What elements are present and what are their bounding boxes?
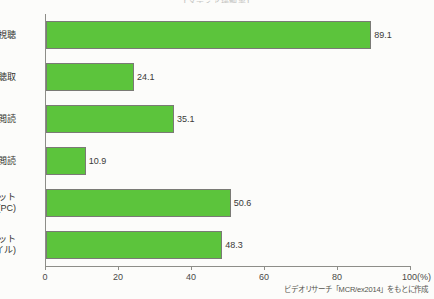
source-note: ビデオリサーチ「MCR/ex2014」をもとに作成 bbox=[284, 283, 428, 294]
category-label-line: ラジオ聴取 bbox=[0, 72, 16, 83]
bar-row: 48.3ネット(モバイル) bbox=[45, 231, 410, 259]
category-label-line: テレビ視聴 bbox=[0, 30, 16, 41]
bar-row: 24.1ラジオ聴取 bbox=[45, 63, 410, 91]
bar[interactable] bbox=[46, 63, 134, 91]
bar-row: 89.1テレビ視聴 bbox=[45, 21, 410, 49]
bar-value-label: 35.1 bbox=[173, 114, 195, 124]
category-label-line: 雑誌閲読 bbox=[0, 156, 16, 167]
bar-value-label: 10.9 bbox=[85, 156, 107, 166]
category-label: ネット(モバイル) bbox=[0, 234, 16, 256]
x-tick-label: 0 bbox=[42, 272, 47, 282]
bar[interactable] bbox=[46, 105, 174, 133]
category-label-line: (PC) bbox=[0, 203, 16, 214]
bar[interactable] bbox=[46, 231, 222, 259]
category-label-line: 新聞閲読 bbox=[0, 114, 16, 125]
bar-value-label: 24.1 bbox=[133, 72, 155, 82]
category-label: ネット(PC) bbox=[0, 192, 16, 214]
bar[interactable] bbox=[46, 189, 231, 217]
chart-title: 【メディア接触率】 bbox=[0, 0, 434, 3]
category-label: 雑誌閲読 bbox=[0, 156, 16, 167]
bar-row: 35.1新聞閲読 bbox=[45, 105, 410, 133]
x-tick-label: 100(%) bbox=[402, 272, 431, 282]
x-tick-label: 20 bbox=[113, 272, 123, 282]
bar-value-label: 48.3 bbox=[221, 240, 243, 250]
bar-value-label: 89.1 bbox=[370, 30, 392, 40]
category-label: 新聞閲読 bbox=[0, 114, 16, 125]
bar-row: 50.6ネット(PC) bbox=[45, 189, 410, 217]
chart-page: 【メディア接触率】 020406080100(%) 89.1テレビ視聴24.1ラ… bbox=[0, 0, 434, 299]
category-label-line: ネット bbox=[0, 192, 16, 203]
x-tick bbox=[337, 266, 338, 270]
x-tick bbox=[191, 266, 192, 270]
x-tick-label: 80 bbox=[332, 272, 342, 282]
category-label-line: (モバイル) bbox=[0, 245, 16, 256]
x-tick bbox=[264, 266, 265, 270]
bar-row: 10.9雑誌閲読 bbox=[45, 147, 410, 175]
category-label: ラジオ聴取 bbox=[0, 72, 16, 83]
x-axis-line bbox=[45, 266, 410, 267]
x-tick-label: 60 bbox=[259, 272, 269, 282]
category-label: テレビ視聴 bbox=[0, 30, 16, 41]
bar[interactable] bbox=[46, 21, 371, 49]
category-label-line: ネット bbox=[0, 234, 16, 245]
bar[interactable] bbox=[46, 147, 86, 175]
x-tick bbox=[118, 266, 119, 270]
x-tick bbox=[410, 266, 411, 270]
bar-value-label: 50.6 bbox=[230, 198, 252, 208]
plot-area: 020406080100(%) 89.1テレビ視聴24.1ラジオ聴取35.1新聞… bbox=[45, 14, 410, 266]
y-axis-line bbox=[45, 14, 46, 266]
x-tick-label: 40 bbox=[186, 272, 196, 282]
x-tick bbox=[45, 266, 46, 270]
